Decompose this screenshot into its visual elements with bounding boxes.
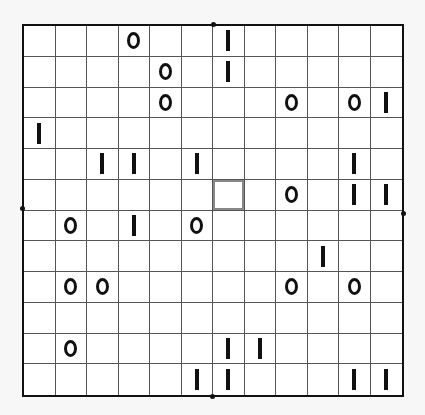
grid-cell-r2-c8[interactable] — [276, 88, 308, 119]
grid-cell-r10-c9[interactable] — [308, 334, 340, 365]
grid-cell-r10-c4[interactable] — [150, 334, 182, 365]
grid-cell-r0-c10[interactable] — [339, 26, 371, 57]
grid-cell-r5-c11[interactable] — [371, 180, 403, 211]
grid-cell-r3-c8[interactable] — [276, 118, 308, 149]
grid-cell-r4-c2[interactable] — [87, 149, 119, 180]
grid-cell-r0-c0[interactable] — [24, 26, 56, 57]
grid-cell-r9-c8[interactable] — [276, 303, 308, 334]
grid-cell-r6-c8[interactable] — [276, 211, 308, 242]
grid-cell-r0-c5[interactable] — [182, 26, 214, 57]
grid-cell-r8-c9[interactable] — [308, 272, 340, 303]
grid-cell-r9-c2[interactable] — [87, 303, 119, 334]
grid-cell-r6-c7[interactable] — [245, 211, 277, 242]
grid-cell-r11-c10[interactable] — [339, 364, 371, 395]
grid-cell-r10-c11[interactable] — [371, 334, 403, 365]
grid-cell-r7-c0[interactable] — [24, 241, 56, 272]
grid-cell-r0-c8[interactable] — [276, 26, 308, 57]
grid-cell-r9-c6[interactable] — [213, 303, 245, 334]
grid-cell-r3-c4[interactable] — [150, 118, 182, 149]
grid-cell-r0-c1[interactable] — [56, 26, 88, 57]
grid-cell-r8-c1[interactable] — [56, 272, 88, 303]
grid-cell-r3-c3[interactable] — [119, 118, 151, 149]
grid-cell-r5-c7[interactable] — [245, 180, 277, 211]
grid-cell-r4-c0[interactable] — [24, 149, 56, 180]
grid-cell-r9-c1[interactable] — [56, 303, 88, 334]
grid-cell-r9-c9[interactable] — [308, 303, 340, 334]
grid-cell-r1-c0[interactable] — [24, 57, 56, 88]
grid-cell-r4-c11[interactable] — [371, 149, 403, 180]
grid-cell-r10-c8[interactable] — [276, 334, 308, 365]
grid-cell-r3-c9[interactable] — [308, 118, 340, 149]
grid-cell-r2-c4[interactable] — [150, 88, 182, 119]
grid-cell-r7-c2[interactable] — [87, 241, 119, 272]
grid-cell-r7-c8[interactable] — [276, 241, 308, 272]
grid-cell-r1-c6[interactable] — [213, 57, 245, 88]
grid-cell-r1-c7[interactable] — [245, 57, 277, 88]
grid-cell-r10-c2[interactable] — [87, 334, 119, 365]
grid-cell-r2-c0[interactable] — [24, 88, 56, 119]
grid-cell-r11-c1[interactable] — [56, 364, 88, 395]
grid-cell-r0-c9[interactable] — [308, 26, 340, 57]
grid-cell-r11-c8[interactable] — [276, 364, 308, 395]
grid-cell-r2-c7[interactable] — [245, 88, 277, 119]
grid-cell-r10-c6[interactable] — [213, 334, 245, 365]
grid-cell-r9-c4[interactable] — [150, 303, 182, 334]
grid-cell-r7-c3[interactable] — [119, 241, 151, 272]
grid-cell-r11-c2[interactable] — [87, 364, 119, 395]
grid-cell-r5-c3[interactable] — [119, 180, 151, 211]
grid-cell-r7-c9[interactable] — [308, 241, 340, 272]
grid-cell-r0-c11[interactable] — [371, 26, 403, 57]
grid-cell-r5-c10[interactable] — [339, 180, 371, 211]
grid-cell-r3-c5[interactable] — [182, 118, 214, 149]
grid-cell-r5-c1[interactable] — [56, 180, 88, 211]
grid-cell-r8-c8[interactable] — [276, 272, 308, 303]
grid-cell-r6-c1[interactable] — [56, 211, 88, 242]
grid-cell-r9-c10[interactable] — [339, 303, 371, 334]
grid-cell-r7-c1[interactable] — [56, 241, 88, 272]
grid-cell-r5-c2[interactable] — [87, 180, 119, 211]
grid-cell-r8-c10[interactable] — [339, 272, 371, 303]
grid-cell-r6-c9[interactable] — [308, 211, 340, 242]
grid-cell-r7-c6[interactable] — [213, 241, 245, 272]
grid-cell-r5-c5[interactable] — [182, 180, 214, 211]
grid-cell-r8-c2[interactable] — [87, 272, 119, 303]
grid-cell-r3-c11[interactable] — [371, 118, 403, 149]
grid-cell-r4-c1[interactable] — [56, 149, 88, 180]
grid-cell-r3-c7[interactable] — [245, 118, 277, 149]
grid-cell-r0-c2[interactable] — [87, 26, 119, 57]
grid-cell-r3-c2[interactable] — [87, 118, 119, 149]
grid-cell-r7-c7[interactable] — [245, 241, 277, 272]
grid-cell-r7-c11[interactable] — [371, 241, 403, 272]
grid-cell-r6-c4[interactable] — [150, 211, 182, 242]
grid-cell-r1-c8[interactable] — [276, 57, 308, 88]
grid-cell-r1-c4[interactable] — [150, 57, 182, 88]
grid-cell-r1-c2[interactable] — [87, 57, 119, 88]
grid-cell-r11-c0[interactable] — [24, 364, 56, 395]
grid-cell-r1-c3[interactable] — [119, 57, 151, 88]
grid-cell-r11-c7[interactable] — [245, 364, 277, 395]
grid-cell-r11-c5[interactable] — [182, 364, 214, 395]
grid-cell-r2-c1[interactable] — [56, 88, 88, 119]
grid-cell-r1-c1[interactable] — [56, 57, 88, 88]
grid-cell-r6-c10[interactable] — [339, 211, 371, 242]
grid-cell-r4-c7[interactable] — [245, 149, 277, 180]
grid-cell-r4-c6[interactable] — [213, 149, 245, 180]
grid-cell-r10-c1[interactable] — [56, 334, 88, 365]
grid-cell-r2-c2[interactable] — [87, 88, 119, 119]
grid-cell-r10-c5[interactable] — [182, 334, 214, 365]
grid-cell-r7-c5[interactable] — [182, 241, 214, 272]
grid-cell-r2-c9[interactable] — [308, 88, 340, 119]
grid-cell-r5-c9[interactable] — [308, 180, 340, 211]
grid-cell-r9-c11[interactable] — [371, 303, 403, 334]
grid-cell-r10-c7[interactable] — [245, 334, 277, 365]
grid-cell-r0-c4[interactable] — [150, 26, 182, 57]
grid-cell-r10-c10[interactable] — [339, 334, 371, 365]
grid-cell-r6-c3[interactable] — [119, 211, 151, 242]
grid-cell-r4-c3[interactable] — [119, 149, 151, 180]
grid-cell-r9-c3[interactable] — [119, 303, 151, 334]
grid-cell-r11-c11[interactable] — [371, 364, 403, 395]
grid-cell-r5-c0[interactable] — [24, 180, 56, 211]
grid-cell-r2-c11[interactable] — [371, 88, 403, 119]
grid-cell-r2-c5[interactable] — [182, 88, 214, 119]
grid-cell-r1-c5[interactable] — [182, 57, 214, 88]
